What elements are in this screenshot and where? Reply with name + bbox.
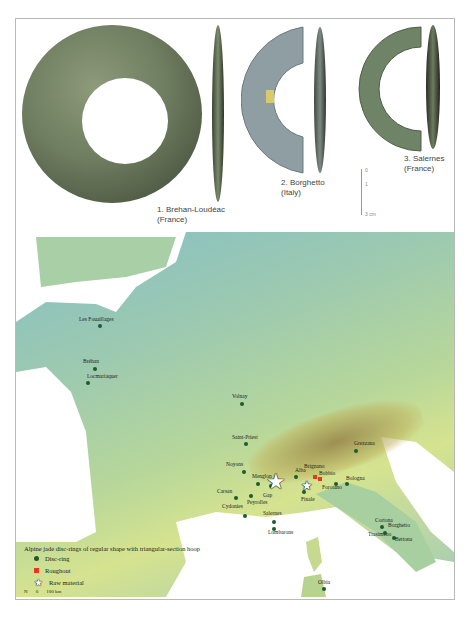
legend-title: Alpine jade disc-rings of regular shape …: [24, 545, 200, 552]
section-view-salernes: [426, 25, 440, 149]
map-legend: Alpine jade disc-rings of regular shape …: [24, 545, 200, 594]
artefact-photos: 1. Brehan-Loudéac (France) 2. Borghetto …: [16, 19, 454, 229]
site-dot: [383, 531, 387, 535]
place-label: Forotano: [322, 484, 342, 490]
section-view-brehan: [212, 25, 224, 202]
site-dot: [98, 324, 102, 328]
site-dot: [240, 402, 244, 406]
caption-salernes: 3. Salernes (France): [404, 154, 444, 174]
place-label: Noyons: [226, 461, 243, 467]
scale-bar-cm: 0 1 3 cm: [359, 167, 389, 229]
place-label: Volnay: [232, 393, 247, 399]
site-dot: [272, 520, 276, 524]
legend-item-disc-ring: Disc-ring: [34, 552, 200, 564]
place-label: Bréhan: [83, 358, 99, 364]
site-dot: [354, 449, 358, 453]
place-label: Saint-Priest: [232, 434, 258, 440]
raw-material-star-icon: ★: [266, 471, 286, 493]
caption-borghetto: 2. Borghetto (Italy): [281, 178, 325, 198]
map-scale: N 0 100 km: [24, 589, 200, 594]
site-dot: [244, 442, 248, 446]
place-label: Finale: [301, 496, 315, 502]
site-dot: [294, 475, 298, 479]
raw-material-star-icon: ★: [301, 479, 313, 492]
place-label: Bobbio: [319, 470, 335, 476]
disc-ring-dot-icon: [34, 556, 39, 561]
scale-label: 100 km: [46, 589, 61, 594]
roughout-square-icon: [34, 568, 39, 573]
place-label: Grezzana: [354, 440, 375, 446]
place-label: Olbia: [318, 579, 330, 585]
site-dot: [322, 587, 326, 591]
scale-tick: 1: [365, 181, 368, 187]
legend-label: Raw material: [49, 579, 84, 586]
disc-ring-borghetto-photo: [241, 25, 311, 175]
ring-hole: [82, 78, 168, 164]
place-label: Bettona: [395, 536, 412, 542]
north-arrow-icon: N: [24, 589, 28, 594]
site-dot: [249, 494, 253, 498]
caption-brehan: 1. Brehan-Loudéac (France): [157, 205, 225, 225]
place-label: Les Fouaillages: [79, 316, 114, 322]
place-label: Borghetto: [388, 522, 410, 528]
legend-label: Disc-ring: [45, 555, 70, 562]
site-dot: [380, 525, 384, 529]
place-label: Bologna: [346, 475, 365, 481]
disc-ring-salernes-photo: [351, 25, 426, 155]
site-dot: [256, 482, 260, 486]
place-label: Peyrolles: [247, 499, 267, 505]
legend-label: Roughout: [45, 567, 71, 574]
scale-line: [361, 169, 362, 215]
disc-ring-brehan-photo: [22, 25, 202, 203]
section-view-borghetto: [314, 27, 326, 173]
site-dot: [86, 381, 90, 385]
raw-material-star-icon: ★: [34, 577, 43, 588]
site-dot: [93, 367, 97, 371]
place-label: Trasimeno: [368, 531, 391, 537]
place-label: Brignano: [304, 463, 324, 469]
roughout-marker: [318, 477, 322, 481]
site-dot: [234, 496, 238, 500]
legend-item-raw-material: ★ Raw material: [34, 576, 200, 588]
legend-item-roughout: Roughout: [34, 564, 200, 576]
figure-frame: 1. Brehan-Loudéac (France) 2. Borghetto …: [15, 18, 455, 600]
site-dot: [345, 482, 349, 486]
scale-tick: 3 cm: [365, 211, 376, 217]
site-dot: [242, 470, 246, 474]
place-label: Locmariaquer: [87, 373, 118, 379]
scale-tick: 0: [365, 167, 368, 173]
site-dot: [243, 514, 247, 518]
place-label: Salernes: [263, 510, 282, 516]
place-label: Carsan: [217, 488, 232, 494]
distribution-map: Les Fouaillages Bréhan Locmariaquer Voln…: [16, 232, 454, 597]
object-tag: [266, 90, 274, 103]
scale-zero: 0: [36, 589, 39, 594]
place-label: Lombarons: [268, 529, 293, 535]
place-label: Cydonies: [222, 503, 243, 509]
roughout-marker: [313, 475, 317, 479]
